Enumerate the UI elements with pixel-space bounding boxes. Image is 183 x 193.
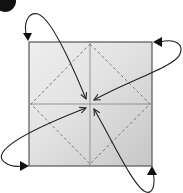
corner-arrowhead-icon xyxy=(153,37,162,47)
corner-arrowhead-icon xyxy=(23,33,32,41)
corner-arrowhead-icon xyxy=(20,161,29,171)
corner-arrowhead-icon xyxy=(147,166,157,175)
origami-diagram xyxy=(0,0,183,193)
